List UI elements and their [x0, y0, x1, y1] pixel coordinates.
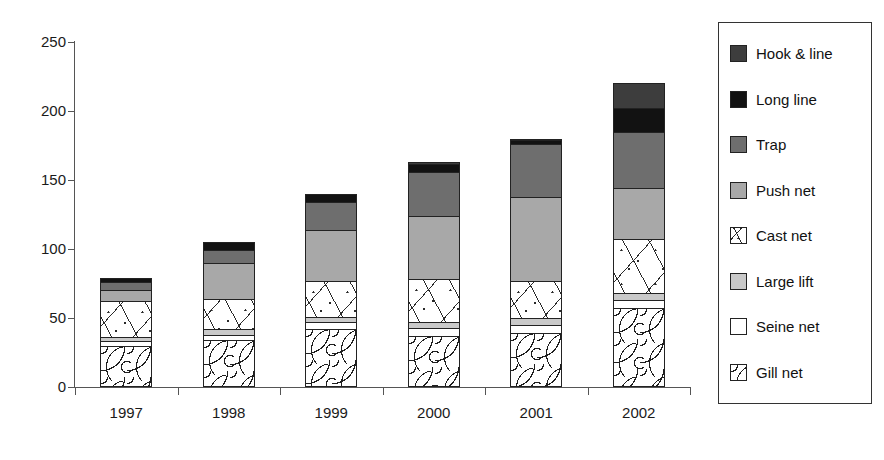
legend-swatch-icon	[730, 136, 747, 153]
bar-segment-1999-cast-net[interactable]	[305, 281, 357, 317]
legend-item-large-lift[interactable]: Large lift	[719, 260, 871, 302]
bar-segment-1999-trap[interactable]	[305, 202, 357, 230]
x-axis-label-1997: 1997	[76, 404, 176, 421]
bar-segment-2002-push-net[interactable]	[613, 188, 665, 239]
bar-segment-2000-seine-net[interactable]	[408, 328, 460, 336]
bar-segment-1997-gill-net[interactable]	[100, 346, 152, 387]
bar-segment-1998-gill-net[interactable]	[203, 340, 255, 387]
bar-segment-2002-gill-net[interactable]	[613, 308, 665, 387]
legend-item-long-line[interactable]: Long line	[719, 78, 871, 120]
bar-segment-2001-trap[interactable]	[510, 144, 562, 196]
legend-swatch-icon	[730, 318, 747, 335]
legend-item-label: Hook & line	[756, 46, 833, 61]
y-axis-tick	[68, 180, 75, 181]
y-axis-label: 50	[8, 309, 66, 326]
legend-item-hook-line[interactable]: Hook & line	[719, 33, 871, 75]
legend-item-push-net[interactable]: Push net	[719, 169, 871, 211]
bar-1997[interactable]	[100, 278, 152, 387]
bar-segment-2002-large-lift[interactable]	[613, 293, 665, 300]
y-axis-tick	[68, 111, 75, 112]
y-axis-tick	[68, 318, 75, 319]
y-axis-tick	[68, 249, 75, 250]
legend-item-label: Trap	[756, 137, 786, 152]
legend-swatch-icon	[730, 364, 747, 381]
legend-item-label: Large lift	[756, 274, 814, 289]
bar-segment-1998-trap[interactable]	[203, 250, 255, 262]
x-axis-label-2002: 2002	[589, 404, 689, 421]
bar-segment-1997-cast-net[interactable]	[100, 301, 152, 337]
legend-item-label: Long line	[756, 92, 817, 107]
bar-2002[interactable]	[613, 83, 665, 387]
bar-segment-1997-push-net[interactable]	[100, 290, 152, 301]
chart-root: 050100150200250 199719981999200020012002…	[0, 0, 884, 460]
bar-segment-2000-gill-net[interactable]	[408, 336, 460, 387]
y-axis-label: 150	[8, 171, 66, 188]
bar-segment-2002-long-line[interactable]	[613, 108, 665, 131]
legend-item-label: Push net	[756, 183, 815, 198]
x-axis-tick	[588, 387, 589, 395]
bar-segment-2001-cast-net[interactable]	[510, 281, 562, 318]
bar-segment-2001-gill-net[interactable]	[510, 333, 562, 387]
x-axis-tick	[485, 387, 486, 395]
legend-swatch-icon	[730, 91, 747, 108]
legend-item-label: Cast net	[756, 228, 812, 243]
x-axis-tick	[75, 387, 76, 395]
bar-segment-1998-cast-net[interactable]	[203, 299, 255, 329]
x-axis-tick	[178, 387, 179, 395]
y-axis-label: 200	[8, 102, 66, 119]
legend-swatch-icon	[730, 182, 747, 199]
bar-segment-1999-push-net[interactable]	[305, 230, 357, 281]
bar-segment-2000-cast-net[interactable]	[408, 279, 460, 322]
legend-item-cast-net[interactable]: Cast net	[719, 215, 871, 257]
bar-segment-2001-seine-net[interactable]	[510, 325, 562, 333]
bar-segment-1997-trap[interactable]	[100, 282, 152, 290]
x-axis-tick	[690, 387, 691, 395]
bar-segment-1999-gill-net[interactable]	[305, 329, 357, 387]
bar-1999[interactable]	[305, 194, 357, 387]
bar-segment-2002-cast-net[interactable]	[613, 239, 665, 293]
bar-segment-2000-trap[interactable]	[408, 172, 460, 216]
bar-2001[interactable]	[510, 139, 562, 387]
legend-item-label: Gill net	[756, 365, 803, 380]
bar-1998[interactable]	[203, 242, 255, 387]
bar-segment-2001-large-lift[interactable]	[510, 318, 562, 325]
x-axis-label-1999: 1999	[281, 404, 381, 421]
bar-segment-1998-push-net[interactable]	[203, 263, 255, 299]
x-axis-label-2001: 2001	[486, 404, 586, 421]
plot-area	[75, 42, 690, 387]
y-axis-label: 250	[8, 33, 66, 50]
bar-segment-1999-long-line[interactable]	[305, 194, 357, 202]
bar-segment-2000-long-line[interactable]	[408, 164, 460, 172]
legend-swatch-icon	[730, 45, 747, 62]
x-axis-label-1998: 1998	[179, 404, 279, 421]
bar-2000[interactable]	[408, 162, 460, 387]
legend-item-label: Seine net	[756, 319, 819, 334]
x-axis-tick	[280, 387, 281, 395]
legend-item-trap[interactable]: Trap	[719, 124, 871, 166]
legend-swatch-icon	[730, 273, 747, 290]
y-axis-label: 100	[8, 240, 66, 257]
x-axis-label-2000: 2000	[384, 404, 484, 421]
bar-segment-2002-trap[interactable]	[613, 132, 665, 189]
legend-item-seine-net[interactable]: Seine net	[719, 306, 871, 348]
y-axis-tick	[68, 42, 75, 43]
bar-segment-2002-hook-line[interactable]	[613, 83, 665, 108]
bar-segment-2001-push-net[interactable]	[510, 197, 562, 281]
legend-swatch-icon	[730, 227, 747, 244]
chart-legend: Hook & lineLong lineTrapPush netCast net…	[718, 22, 872, 404]
legend-item-gill-net[interactable]: Gill net	[719, 351, 871, 393]
bar-segment-1998-long-line[interactable]	[203, 242, 255, 250]
x-axis-tick	[383, 387, 384, 395]
y-axis-label: 0	[8, 378, 66, 395]
bar-segment-2002-seine-net[interactable]	[613, 300, 665, 308]
bar-segment-2000-push-net[interactable]	[408, 216, 460, 279]
bar-segment-1999-seine-net[interactable]	[305, 322, 357, 329]
